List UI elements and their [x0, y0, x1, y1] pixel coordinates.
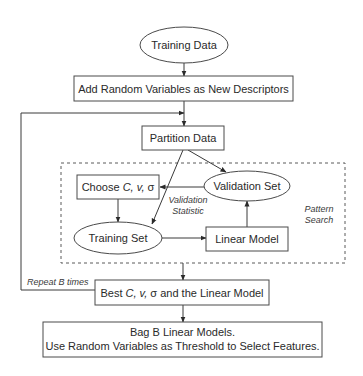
flowchart-canvas: Training Data Add Random Variables as Ne… [0, 0, 363, 376]
node-best-label: Best C, v, σ and the Linear Model [100, 287, 263, 299]
node-bag-line2: Use Random Variables as Threshold to Sel… [45, 340, 319, 352]
annotation-validation-statistic-2: Statistic [172, 206, 204, 216]
node-linear-model-label: Linear Model [215, 233, 279, 245]
annotation-pattern-search-2: Search [305, 215, 334, 225]
node-choose-label: Choose C, v, σ [82, 181, 155, 193]
node-training-data-label: Training Data [151, 39, 218, 51]
annotation-pattern-search-1: Pattern [304, 204, 333, 214]
node-add-random-label: Add Random Variables as New Descriptors [78, 83, 289, 95]
annotation-validation-statistic-1: Validation [168, 195, 207, 205]
node-partition-label: Partition Data [150, 132, 218, 144]
node-validation-set-label: Validation Set [213, 180, 280, 192]
node-training-set-label: Training Set [89, 232, 148, 244]
edge-partition-to-validation-set [188, 150, 226, 172]
annotation-repeat: Repeat B times [27, 277, 89, 287]
node-bag-line1: Bag B Linear Models. [130, 326, 235, 338]
